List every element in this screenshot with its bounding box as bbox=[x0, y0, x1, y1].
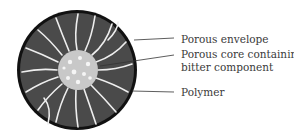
label-porous-envelope: Porous envelope bbox=[181, 33, 269, 45]
label-polymer: Polymer bbox=[181, 86, 224, 98]
label-porous-core-line1: Porous core containing bbox=[181, 48, 294, 60]
label-porous-core-line2: bitter component bbox=[181, 61, 273, 73]
